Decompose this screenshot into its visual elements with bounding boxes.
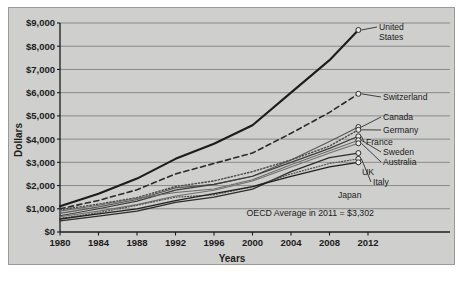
chart-figure: $0$1,000$2,000$3,000$4,000$5,000$6,000$7…	[0, 0, 463, 291]
chart-panel	[8, 7, 455, 265]
